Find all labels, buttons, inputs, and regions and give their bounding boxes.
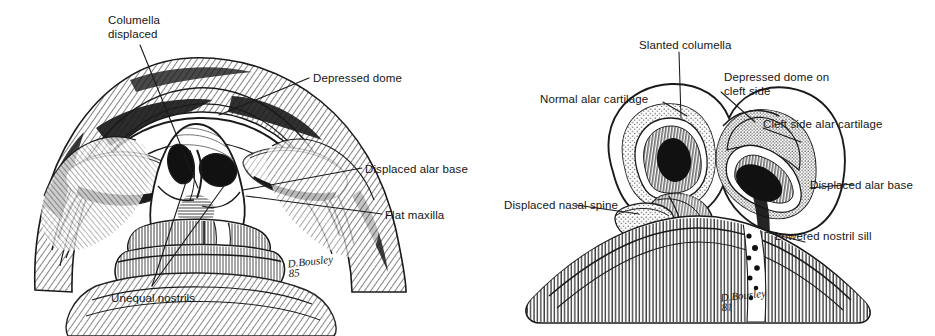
label-displaced-alar-base-right: Displaced alar base (810, 179, 913, 193)
label-slanted-columella: Slanted columella (639, 39, 731, 53)
panel-left-basal-face-view: Columella displaced Depressed dome Displ… (0, 0, 470, 336)
label-depressed-dome: Depressed dome (313, 72, 402, 86)
label-lowered-nostril-sill: Lowered nostril sill (775, 230, 872, 244)
label-normal-alar-cartilage: Normal alar cartilage (540, 93, 648, 107)
panel-right-cartilage-view: Slanted columella Depressed dome on clef… (465, 0, 935, 336)
upper-lip-triangle (521, 210, 881, 328)
chin (66, 273, 336, 336)
figure-root: Columella displaced Depressed dome Displ… (0, 0, 935, 336)
label-unequal-nostrils: Unequal nostrils (111, 292, 195, 306)
label-columella-displaced: Columella displaced (108, 14, 160, 41)
label-displaced-nasal-spine: Displaced nasal spine (504, 199, 618, 213)
label-cleft-side-alar-cartilage: Cleft side alar cartilage (763, 118, 882, 132)
label-depressed-dome-cleft-side: Depressed dome on cleft side (724, 71, 829, 98)
label-flat-maxilla: Flat maxilla (385, 209, 444, 223)
label-displaced-alar-base: Displaced alar base (365, 163, 468, 177)
